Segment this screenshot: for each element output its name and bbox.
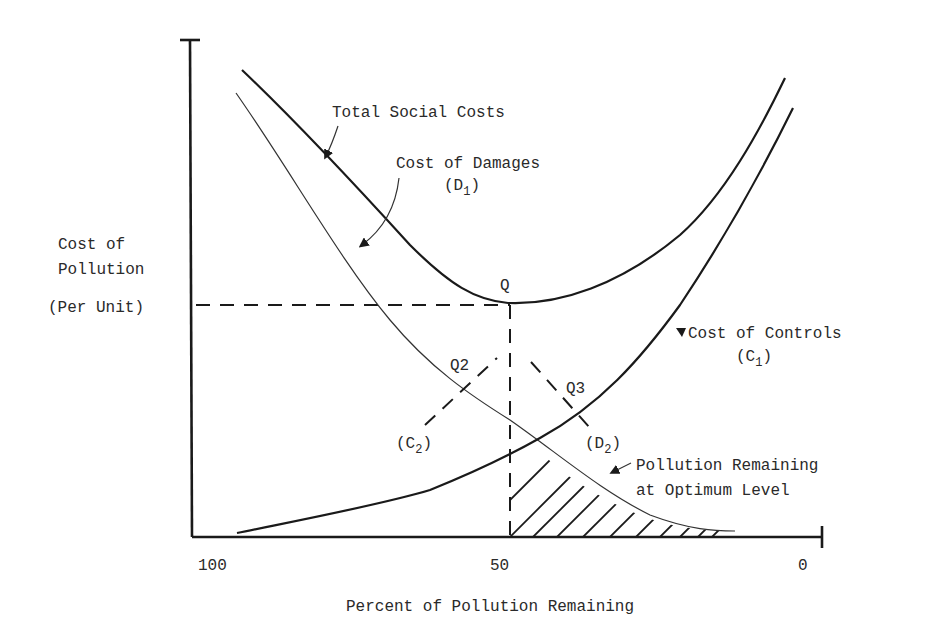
x-tick-0: 0 [798, 557, 808, 575]
cost-of-damages-symbol: (D1) [444, 177, 480, 199]
shaded-region-arrow [613, 463, 631, 472]
cost-of-controls-symbol: (C1) [736, 348, 772, 370]
y-axis-label-line-3: (Per Unit) [48, 299, 144, 317]
y-axis-label-line-2: Pollution [58, 261, 144, 279]
cost-of-controls-subscript: 1 [755, 356, 762, 370]
d2-letter: D [595, 435, 605, 453]
c2-letter: C [406, 435, 416, 453]
point-q2-label: Q2 [450, 357, 469, 375]
cost-of-damages-letter: D [454, 177, 464, 195]
cost-of-controls-arrow-icon [676, 328, 686, 337]
x-tick-50: 50 [490, 557, 509, 575]
c2-subscript: 2 [415, 443, 422, 457]
cost-of-damages-subscript: 1 [463, 185, 470, 199]
pollution-cost-diagram: Cost of Pollution (Per Unit) 100 50 0 Pe… [0, 0, 930, 637]
shaded-region-label-line-2: at Optimum Level [636, 482, 790, 500]
d2-label: (D2) [585, 435, 621, 457]
total-social-costs-label: Total Social Costs [332, 104, 505, 122]
cost-of-controls-label: Cost of Controls [688, 325, 842, 343]
total-social-costs-arrow [326, 126, 338, 156]
y-axis-label-line-1: Cost of [58, 236, 125, 254]
x-axis [192, 526, 822, 548]
cost-of-damages-label: Cost of Damages [396, 155, 540, 173]
x-tick-100: 100 [198, 557, 227, 575]
c2-label: (C2) [396, 435, 432, 457]
point-q-label: Q [500, 277, 510, 295]
y-axis [180, 40, 200, 537]
x-axis-label: Percent of Pollution Remaining [346, 598, 634, 616]
point-q3-label: Q3 [566, 380, 585, 398]
d2-subscript: 2 [604, 443, 611, 457]
shaded-region-label-line-1: Pollution Remaining [636, 457, 818, 475]
cost-of-controls-letter: C [746, 348, 756, 366]
